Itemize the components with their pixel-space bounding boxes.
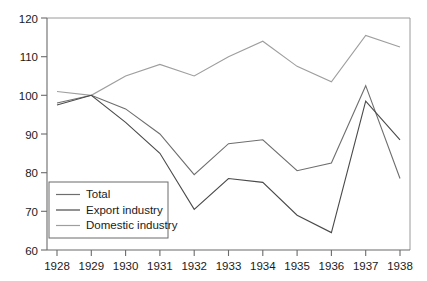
x-axis-labels: 1928 1929 1930 1931 1932 1933 1934 1935 … — [44, 260, 413, 272]
y-axis-label-80: 80 — [25, 167, 38, 179]
x-axis-label-1930: 1930 — [113, 260, 139, 272]
legend-label-export-industry: Export industry — [86, 204, 163, 216]
x-axis-label-1929: 1929 — [79, 260, 105, 272]
x-axis-label-1937: 1937 — [353, 260, 379, 272]
y-axis-label-70: 70 — [25, 206, 38, 218]
legend-label-domestic-industry: Domestic industry — [86, 219, 178, 231]
x-axis-label-1928: 1928 — [44, 260, 70, 272]
chart-background — [0, 0, 427, 281]
chart-canvas: 120 110 100 90 80 70 60 — [0, 0, 427, 281]
y-axis-label-110: 110 — [20, 51, 38, 63]
x-axis-label-1935: 1935 — [284, 260, 310, 272]
x-axis-label-1938: 1938 — [387, 260, 413, 272]
x-axis-label-1932: 1932 — [181, 260, 207, 272]
legend-label-total: Total — [86, 188, 110, 200]
x-axis-label-1936: 1936 — [319, 260, 345, 272]
x-axis-label-1931: 1931 — [147, 260, 173, 272]
x-axis-label-1934: 1934 — [250, 260, 276, 272]
x-axis-label-1933: 1933 — [216, 260, 242, 272]
y-axis-label-100: 100 — [19, 90, 38, 102]
chart-legend: Total Export industry Domestic industry — [49, 182, 178, 238]
y-axis-label-60: 60 — [25, 245, 38, 257]
line-chart-figure: 120 110 100 90 80 70 60 — [0, 0, 427, 281]
y-axis-label-90: 90 — [25, 129, 38, 141]
y-axis-label-120: 120 — [19, 13, 38, 25]
